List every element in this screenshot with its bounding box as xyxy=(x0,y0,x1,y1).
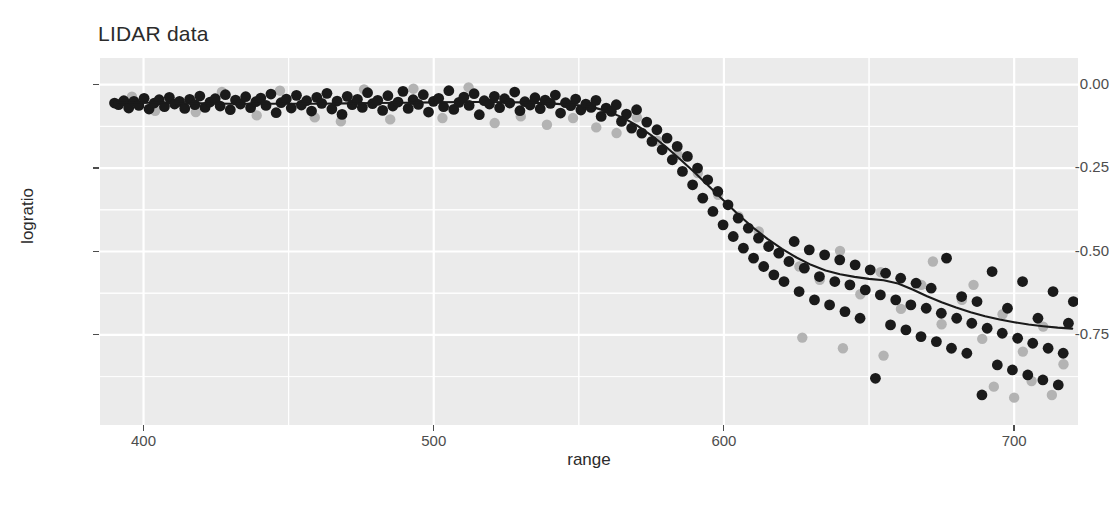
data-point-secondary xyxy=(437,113,447,123)
data-point xyxy=(895,273,906,284)
data-point xyxy=(718,219,729,230)
data-point xyxy=(332,96,343,107)
data-point xyxy=(570,94,581,105)
data-point xyxy=(372,95,383,106)
data-point xyxy=(1033,313,1044,324)
data-point xyxy=(322,88,333,99)
data-point xyxy=(337,109,348,120)
data-point xyxy=(1037,375,1048,386)
data-point xyxy=(972,296,983,307)
data-point xyxy=(936,308,947,319)
data-point xyxy=(413,99,424,110)
data-point xyxy=(728,231,739,242)
x-axis-label: range xyxy=(539,450,639,470)
data-point xyxy=(941,253,952,264)
data-point xyxy=(652,124,663,135)
data-point xyxy=(1058,348,1069,359)
data-point-secondary xyxy=(1009,392,1019,402)
data-point xyxy=(768,269,779,280)
data-point xyxy=(550,90,561,101)
data-point xyxy=(956,291,967,302)
data-point xyxy=(469,88,480,99)
data-point xyxy=(885,320,896,331)
data-point xyxy=(1027,338,1038,349)
data-point xyxy=(901,325,912,336)
data-point xyxy=(779,276,790,287)
data-point xyxy=(758,261,769,272)
y-tick-mark xyxy=(93,251,99,253)
data-point xyxy=(509,87,520,98)
data-point xyxy=(225,104,236,115)
data-point xyxy=(926,283,937,294)
data-point xyxy=(951,313,962,324)
plot-canvas xyxy=(100,58,1078,425)
data-point-secondary xyxy=(896,304,906,314)
x-tick-label: 700 xyxy=(974,432,1054,449)
data-point xyxy=(921,303,932,314)
data-point-secondary xyxy=(611,128,621,138)
data-point xyxy=(215,101,226,112)
data-point-secondary xyxy=(989,381,999,391)
data-point xyxy=(474,109,485,120)
data-point-secondary xyxy=(568,113,578,123)
data-point-secondary xyxy=(928,256,938,266)
page-title: LIDAR data xyxy=(98,22,209,46)
x-tick-label: 600 xyxy=(684,432,764,449)
data-point xyxy=(880,268,891,279)
data-point xyxy=(748,253,759,264)
data-point xyxy=(916,331,927,342)
data-point xyxy=(240,91,251,102)
plot-panel xyxy=(100,58,1078,425)
data-point xyxy=(591,95,602,106)
data-point xyxy=(911,278,922,289)
data-point xyxy=(1043,343,1054,354)
y-tick-label: 0.00 xyxy=(1039,75,1109,92)
data-point xyxy=(220,89,231,100)
data-point xyxy=(261,100,272,111)
data-point xyxy=(946,343,957,354)
data-point xyxy=(1012,333,1023,344)
x-tick-mark xyxy=(433,425,435,431)
data-point xyxy=(708,206,719,217)
y-tick-mark xyxy=(93,167,99,169)
data-point xyxy=(931,336,942,347)
data-point xyxy=(1007,365,1018,376)
chart-figure: LIDAR data logratio range 0.00-0.25-0.50… xyxy=(0,0,1109,509)
panel-background xyxy=(100,58,1078,425)
data-point xyxy=(789,236,800,247)
data-point xyxy=(804,244,815,255)
data-point-secondary xyxy=(838,343,848,353)
data-point xyxy=(271,107,282,118)
data-point xyxy=(362,87,373,98)
data-point xyxy=(489,91,500,102)
data-point xyxy=(530,92,541,103)
data-point xyxy=(418,89,429,100)
data-point xyxy=(672,141,683,152)
y-tick-mark xyxy=(93,334,99,336)
data-point-secondary xyxy=(408,83,418,93)
data-point xyxy=(814,271,825,282)
data-point xyxy=(819,249,830,260)
data-point-secondary xyxy=(591,122,601,132)
x-tick-mark xyxy=(1013,425,1015,431)
y-axis-ticks xyxy=(0,0,100,509)
data-point xyxy=(997,328,1008,339)
data-point xyxy=(738,243,749,254)
y-tick-mark xyxy=(93,84,99,86)
data-point xyxy=(977,390,988,401)
data-point xyxy=(890,294,901,305)
data-point-secondary xyxy=(542,120,552,130)
data-point xyxy=(423,107,434,118)
data-point-secondary xyxy=(489,118,499,128)
data-point xyxy=(194,91,205,102)
data-point xyxy=(1002,303,1013,314)
data-point-secondary xyxy=(968,280,978,290)
y-tick-label: -0.50 xyxy=(1039,242,1109,259)
data-point-secondary xyxy=(797,332,807,342)
data-point xyxy=(687,179,698,190)
data-point-secondary xyxy=(1047,390,1057,400)
data-point-secondary xyxy=(977,334,987,344)
data-point xyxy=(875,289,886,300)
data-point xyxy=(992,360,1003,371)
data-point xyxy=(961,348,972,359)
